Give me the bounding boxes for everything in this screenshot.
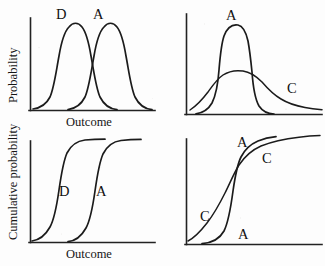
figure-canvas: D A Outcome Probability A C D A xyxy=(0,0,325,266)
x-axis-label-top-left: Outcome xyxy=(66,115,112,129)
panel-top-right: A C xyxy=(185,7,322,115)
label-A-bottom-left: A xyxy=(96,183,107,199)
panel-bottom-left: D A Outcome Cumulative probability xyxy=(6,123,155,261)
curve-A-density xyxy=(68,23,152,109)
curve-C-broad-density xyxy=(190,71,322,110)
label-C-top-right: C xyxy=(287,80,297,96)
label-A-bottom-right-lower: A xyxy=(238,226,249,242)
y-axis-label-bottom-left: Cumulative probability xyxy=(6,123,20,240)
label-A-top-right: A xyxy=(226,7,237,23)
y-axis-label-top-left: Probability xyxy=(6,47,20,103)
curve-C-cdf-shallow xyxy=(188,136,320,241)
curve-A-narrow-density xyxy=(196,25,274,114)
label-D-bottom-left: D xyxy=(59,183,69,199)
label-C-bottom-right-lower: C xyxy=(200,208,210,224)
curve-D-density xyxy=(33,23,117,109)
label-D-top-left: D xyxy=(56,6,66,22)
x-axis-label-bottom-left: Outcome xyxy=(66,247,112,261)
label-A-top-left: A xyxy=(93,6,104,22)
panel-top-left: D A Outcome Probability xyxy=(6,6,155,129)
label-A-bottom-right-upper: A xyxy=(237,134,248,150)
figure-root: D A Outcome Probability A C D A xyxy=(0,0,325,266)
label-C-bottom-right-upper: C xyxy=(262,150,272,166)
panel-bottom-right: A C C A xyxy=(185,134,322,245)
